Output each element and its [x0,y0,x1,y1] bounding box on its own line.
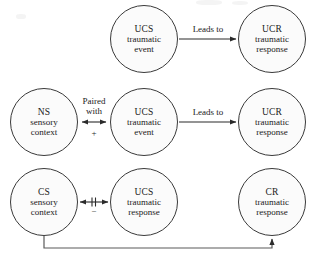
node-label-line2: traumatic [255,34,289,44]
node-label-line1: UCR [262,24,282,35]
node-label-line1: UCS [134,107,153,118]
node-label-line1: CS [38,187,50,198]
node-label-line2: traumatic [127,197,161,207]
node-label-line3: response [256,207,288,217]
node-label-line3: event [134,44,154,54]
node-label-line2: sensory [30,197,58,207]
node-label-line1: UCR [262,107,282,118]
node-label-line1: UCS [134,187,153,198]
scan-artifact [196,0,222,5]
node-cr-bot[interactable]: CR traumatic response [238,168,306,236]
node-label-line1: CR [265,187,278,198]
node-cs-bot[interactable]: CS sensory context [10,168,78,236]
node-label-line2: traumatic [127,34,161,44]
connector-label-leads-to-top: Leads to [182,25,234,35]
node-ucs-mid[interactable]: UCS traumatic event [110,88,178,156]
node-ucs-top[interactable]: UCS traumatic event [110,5,178,73]
feedback-path-cs-to-cr [44,236,272,248]
connector-label-paired-with-line2: with [68,107,120,117]
node-label-line2: traumatic [255,197,289,207]
node-ucs-bot[interactable]: UCS traumatic response [110,168,178,236]
scan-artifact [16,14,26,19]
node-label-line2: traumatic [127,117,161,127]
node-label-line3: context [31,127,58,137]
diagram-canvas: UCS traumatic event UCR traumatic respon… [0,0,312,257]
connector-sign-minus: – [68,207,120,215]
connector-sign-plus: + [68,129,120,138]
node-label-line2: traumatic [255,117,289,127]
node-label-line3: response [128,207,160,217]
node-label-line3: response [256,44,288,54]
node-label-line1: UCS [134,24,153,35]
node-label-line2: sensory [30,117,58,127]
node-label-line3: response [256,127,288,137]
node-label-line1: NS [38,107,51,118]
node-ucr-mid[interactable]: UCR traumatic response [238,88,306,156]
connector-label-leads-to-mid: Leads to [182,108,234,118]
node-ucr-top[interactable]: UCR traumatic response [238,5,306,73]
scan-artifact [232,1,248,5]
node-label-line3: event [134,127,154,137]
node-label-line3: context [31,207,58,217]
